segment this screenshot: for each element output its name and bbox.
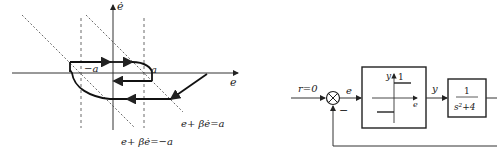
e-axis-label: e (230, 76, 237, 89)
relay-y-label: y (385, 71, 392, 81)
neg-a-label: −a (84, 63, 98, 74)
summing-junction (327, 92, 340, 105)
output-label: y (431, 83, 438, 94)
relay-level-label: 1 (398, 72, 404, 82)
block-diagram: r=0 − e y 1 e y 1 s²+4 (291, 67, 497, 146)
plant-numerator: 1 (464, 86, 470, 96)
edot-axis-label: ė (117, 0, 124, 13)
upper-line-label: e+ βė=a (181, 118, 225, 129)
relay-e-label: e (413, 100, 418, 109)
pos-a-label: a (151, 64, 157, 75)
phase-plane-diagram: e ė −a a e+ βė=a e+ βė=−a (12, 0, 238, 147)
line-e-plus-beta-edot-eq-neg-a (22, 15, 135, 128)
plant-denominator: s²+4 (454, 102, 476, 112)
input-label: r=0 (298, 83, 318, 94)
lower-line-label: e+ βė=−a (121, 136, 173, 147)
error-label: e (346, 85, 352, 96)
feedback-sign: − (339, 104, 348, 117)
